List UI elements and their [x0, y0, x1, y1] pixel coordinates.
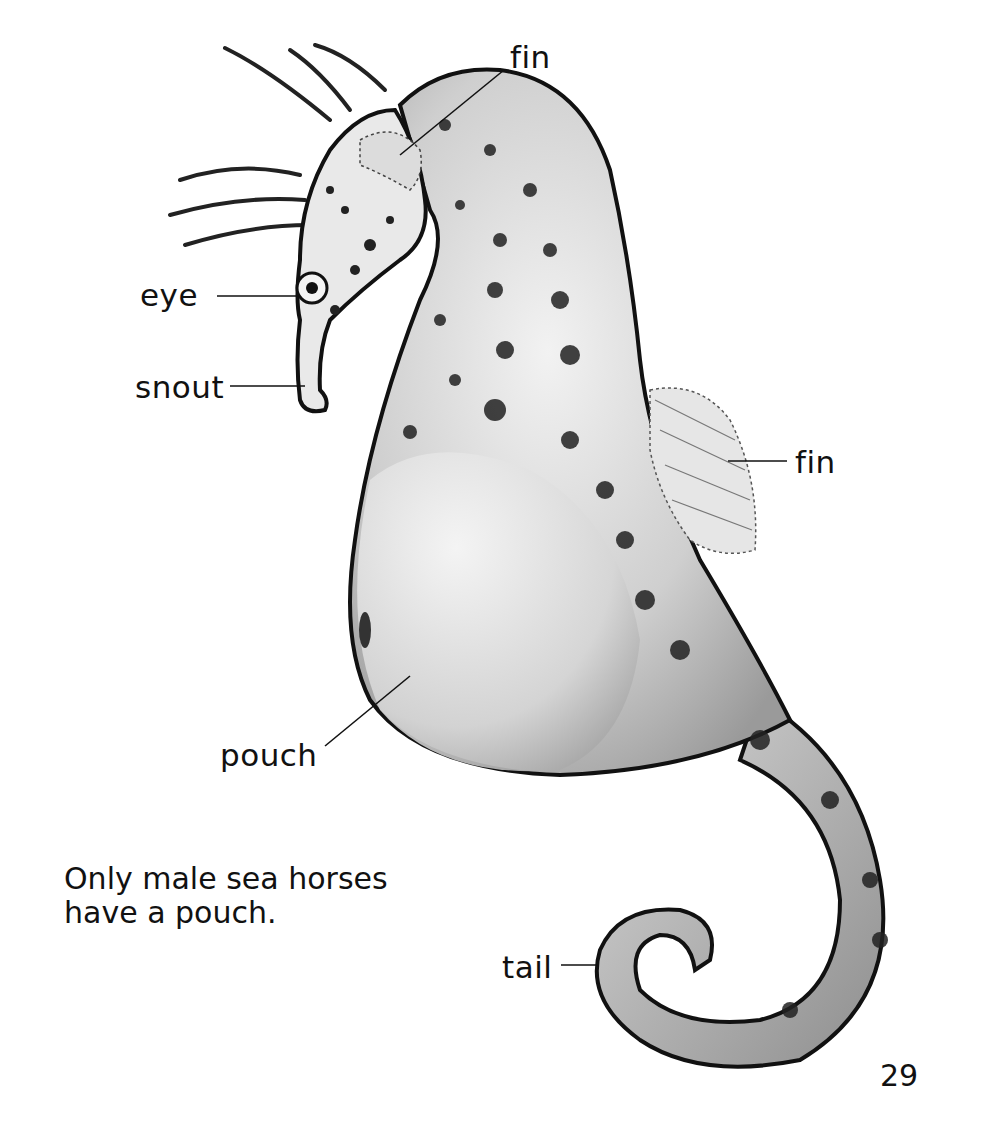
label-tail: tail — [502, 952, 552, 983]
label-fin-back: fin — [795, 447, 836, 478]
caption: Only male sea horses have a pouch. — [64, 862, 388, 930]
label-pouch: pouch — [220, 740, 317, 771]
label-snout: snout — [135, 372, 224, 403]
page-number: 29 — [880, 1058, 918, 1093]
seahorse-illustration — [0, 0, 1000, 1133]
label-eye: eye — [140, 280, 198, 311]
caption-line-2: have a pouch. — [64, 896, 388, 930]
label-fin-top: fin — [510, 42, 551, 73]
caption-line-1: Only male sea horses — [64, 862, 388, 896]
